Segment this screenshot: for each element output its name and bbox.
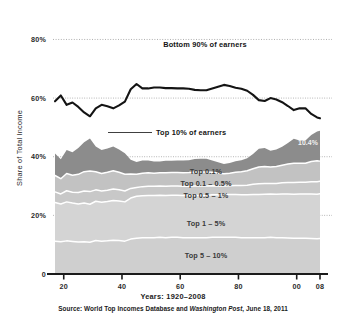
top-10-label: Top 10% of earners bbox=[156, 128, 226, 137]
source-caption: Source: World Top Incomes Database and W… bbox=[58, 305, 288, 313]
x-tick-label-80: 80 bbox=[234, 282, 242, 291]
band-label-top-01: Top 0.1% bbox=[190, 167, 223, 176]
top-01-value-annotation: 10.4% bbox=[298, 139, 318, 146]
y-tick-label-40pct: 40% bbox=[31, 152, 46, 161]
y-tick-label-0: 0 bbox=[42, 270, 46, 279]
y-tick-label-80pct: 80% bbox=[31, 35, 46, 44]
y-tick-label-20pct: 20% bbox=[31, 211, 46, 220]
y-axis-title: Share of Total Income bbox=[15, 110, 24, 186]
income-share-chart: 80%60%40%20%0 204060800008 Share of Tota… bbox=[0, 0, 347, 325]
x-tick-label-08: 08 bbox=[316, 282, 324, 291]
y-tick-label-60pct: 60% bbox=[31, 94, 46, 103]
x-tick-label-40: 40 bbox=[118, 282, 126, 291]
x-tick-label-00: 00 bbox=[293, 282, 301, 291]
band-label-top-05-1: Top 0.5 – 1% bbox=[184, 191, 229, 200]
band-label-top-1-5: Top 1 – 5% bbox=[187, 219, 226, 228]
x-axis-caption: Years: 1920–2008 bbox=[140, 292, 205, 301]
chart-canvas: 80%60%40%20%0 204060800008 Share of Tota… bbox=[0, 0, 347, 325]
x-tick-label-60: 60 bbox=[176, 282, 184, 291]
band-label-top-01-05: Top 0.1 – 0.5% bbox=[180, 179, 232, 188]
x-tick-label-20: 20 bbox=[60, 282, 68, 291]
bottom-90-label: Bottom 90% of earners bbox=[163, 40, 247, 49]
band-label-top-5-10: Top 5 – 10% bbox=[185, 251, 228, 260]
